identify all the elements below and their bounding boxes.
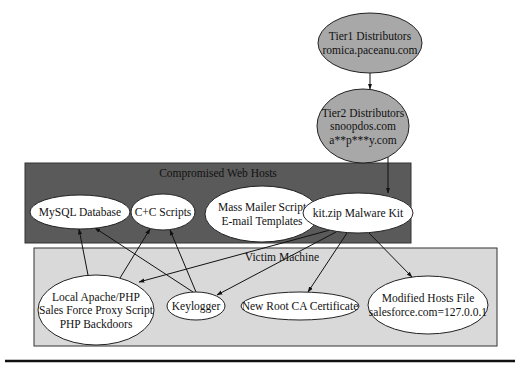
node-label-tier1: Tier1 Distributors xyxy=(329,30,412,42)
node-label-apache: PHP Backdoors xyxy=(60,318,133,330)
node-label-kit: kit.zip Malware Kit xyxy=(313,207,404,220)
node-label-tier1: romica.paceanu.com xyxy=(322,44,417,57)
node-mailer: Mass Mailer ScriptE-mail Templates xyxy=(205,186,319,242)
node-keylogger: Keylogger xyxy=(167,292,225,320)
malware-distribution-diagram: Compromised Web HostsVictim Machine Tier… xyxy=(0,0,521,365)
node-rootca: New Root CA Certificate xyxy=(241,292,359,320)
node-label-apache: Local Apache/PHP xyxy=(52,291,140,304)
group-label-victim: Victim Machine xyxy=(245,251,319,263)
group-label-compromised: Compromised Web Hosts xyxy=(159,167,277,180)
node-label-tier2: Tier2 Distributors xyxy=(322,107,405,119)
node-label-tier2: snoopdos.com xyxy=(330,120,396,133)
node-mysql: MySQL Database xyxy=(30,195,130,229)
node-label-rootca: New Root CA Certificate xyxy=(242,300,359,312)
node-label-hosts: salesforce.com=127.0.0.1 xyxy=(369,306,488,318)
node-kit: kit.zip Malware Kit xyxy=(303,193,413,233)
node-cc: C+C Scripts xyxy=(131,194,195,230)
node-label-mailer: Mass Mailer Script xyxy=(218,201,307,214)
node-apache: Local Apache/PHPSales Force Proxy Script… xyxy=(38,275,154,345)
node-label-hosts: Modified Hosts File xyxy=(382,292,475,304)
node-hosts: Modified Hosts Filesalesforce.com=127.0.… xyxy=(368,276,488,334)
node-label-cc: C+C Scripts xyxy=(135,206,192,219)
node-label-tier2: a**p***y.com xyxy=(329,134,396,147)
node-tier1: Tier1 Distributorsromica.paceanu.com xyxy=(318,13,422,73)
node-label-mysql: MySQL Database xyxy=(39,206,121,219)
node-tier2: Tier2 Distributorssnoopdos.coma**p***y.c… xyxy=(317,89,409,163)
node-label-mailer: E-mail Templates xyxy=(221,215,303,228)
node-label-apache: Sales Force Proxy Script xyxy=(39,304,154,317)
node-label-keylogger: Keylogger xyxy=(172,300,221,313)
